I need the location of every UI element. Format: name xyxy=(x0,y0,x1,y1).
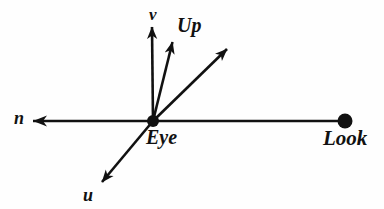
label-look: Look xyxy=(323,128,367,149)
label-v: v xyxy=(149,6,157,23)
label-n: n xyxy=(14,109,24,127)
label-up: Up xyxy=(177,15,201,35)
label-eye: Eye xyxy=(146,127,177,147)
label-u: u xyxy=(83,186,93,204)
up-vector-line xyxy=(153,42,173,121)
diagram-canvas: v Up n Eye Look u xyxy=(0,0,384,209)
v-axis-line xyxy=(152,27,153,121)
diagonal-vector-line xyxy=(153,49,227,121)
